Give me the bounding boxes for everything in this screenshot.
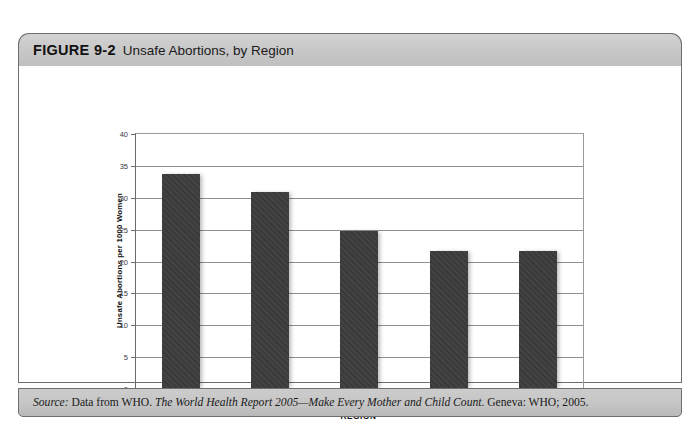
figure-header-band: FIGURE 9-2Unsafe Abortions, by Region [18,33,682,66]
y-tick-label: 5 [124,353,128,362]
bar [340,231,378,389]
bar-group: Western Africa [315,134,404,389]
bar-chart: Unsafe Abortions per 1000 Women 05101520… [19,66,681,382]
figure-caption-text: Unsafe Abortions, by Region [123,43,294,58]
y-tick-label: 30 [120,193,128,202]
bar-group: Eastern Africa [225,134,314,389]
y-tick-label: 40 [120,130,128,139]
bars-group: South AmericaEastern AfricaWestern Afric… [136,134,583,389]
source-report-title: The World Health Report 2005—Make Every … [155,396,484,409]
y-tick-label: 10 [120,321,128,330]
bar [430,251,468,389]
bar [519,251,557,389]
figure-number: FIGURE 9-2 [33,42,116,58]
bar-group: South Asia [494,134,583,389]
y-tick-label: 15 [120,289,128,298]
y-tick-label: 35 [120,161,128,170]
source-band: Source: Data from WHO. The World Health … [18,388,682,417]
bar-group: Central Africa [404,134,493,389]
source-post-text: Geneva: WHO; 2005. [484,396,588,409]
bar [251,192,289,389]
figure-container: FIGURE 9-2Unsafe Abortions, by Region Un… [18,33,682,417]
source-pre-text: Data from WHO. [69,396,155,409]
y-tick-label: 25 [120,225,128,234]
bar [162,174,200,389]
chart-panel: Unsafe Abortions per 1000 Women 05101520… [18,66,682,383]
source-label: Source: [33,396,69,409]
plot-area: 0510152025303540 South AmericaEastern Af… [135,133,584,390]
bar-group: South America [136,134,225,389]
source-note: Source: Data from WHO. The World Health … [33,396,588,409]
figure-title: FIGURE 9-2Unsafe Abortions, by Region [33,41,294,59]
y-tick-label: 20 [120,257,128,266]
